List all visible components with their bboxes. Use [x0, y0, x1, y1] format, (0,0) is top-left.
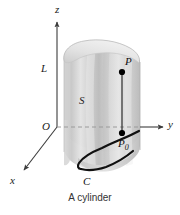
- point-label-p0: P0: [118, 138, 129, 152]
- point-p0-marker: [119, 130, 125, 136]
- origin-label-o: O: [42, 121, 50, 132]
- z-axis-label: z: [55, 4, 59, 15]
- x-axis-label: x: [10, 175, 15, 186]
- curve-label-c: C: [83, 176, 90, 187]
- y-axis-label: y: [168, 119, 173, 130]
- figure-caption: A cylinder: [0, 193, 180, 203]
- point-label-p: P: [125, 56, 132, 67]
- point-label-p0-base: P: [118, 137, 125, 149]
- point-label-p0-subscript: 0: [125, 143, 129, 152]
- surface-label-s: S: [79, 95, 85, 106]
- x-axis-line: [24, 127, 57, 170]
- cylinder-figure: z y x L O S P P0 C A cylinder: [0, 0, 180, 215]
- point-p-marker: [119, 69, 125, 75]
- height-label-l: L: [41, 63, 47, 74]
